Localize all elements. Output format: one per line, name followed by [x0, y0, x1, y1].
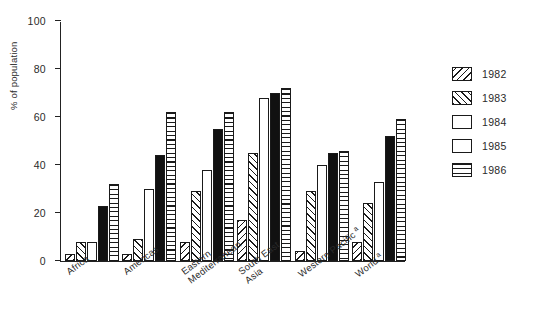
bar [270, 93, 280, 261]
bar-group [180, 22, 234, 261]
legend-swatch-1982 [452, 67, 472, 81]
legend-label: 1986 [482, 164, 507, 176]
legend-item: 1983 [452, 86, 536, 110]
bar-group [122, 22, 176, 261]
bar [180, 242, 190, 261]
bar [281, 88, 291, 261]
legend-swatch-1984 [452, 115, 472, 129]
bar-group [295, 22, 349, 261]
legend: 19821983198419851986 [452, 62, 536, 182]
bar [259, 98, 269, 261]
legend-item: 1986 [452, 158, 536, 182]
bar [385, 136, 395, 261]
legend-label: 1985 [482, 140, 507, 152]
legend-label: 1982 [482, 68, 507, 80]
y-tick-100: 100 [55, 20, 61, 21]
bar [396, 119, 406, 261]
legend-swatch-1985 [452, 139, 472, 153]
bar [306, 191, 316, 261]
bar-group [352, 22, 406, 261]
legend-item: 1985 [452, 134, 536, 158]
bar [191, 191, 201, 261]
legend-item: 1984 [452, 110, 536, 134]
bar-group [65, 22, 119, 261]
legend-item: 1982 [452, 62, 536, 86]
bar [166, 112, 176, 261]
y-tick-label-20: 20 [34, 205, 46, 221]
bar [98, 206, 108, 261]
y-tick-label-100: 100 [28, 13, 46, 29]
bar [109, 184, 119, 261]
bar-chart: % of population 020406080100 AfricaAmeri… [0, 0, 544, 331]
y-tick-label-60: 60 [34, 109, 46, 125]
bar [155, 155, 165, 261]
bar [352, 242, 362, 261]
legend-label: 1984 [482, 116, 507, 128]
bar-group [237, 22, 291, 261]
bar [248, 153, 258, 261]
legend-swatch-1986 [452, 163, 472, 177]
legend-swatch-1983 [452, 91, 472, 105]
y-tick-label-40: 40 [34, 157, 46, 173]
y-tick-label-0: 0 [40, 253, 46, 269]
y-axis-title: % of population [8, 94, 19, 110]
y-tick-label-80: 80 [34, 61, 46, 77]
legend-label: 1983 [482, 92, 507, 104]
